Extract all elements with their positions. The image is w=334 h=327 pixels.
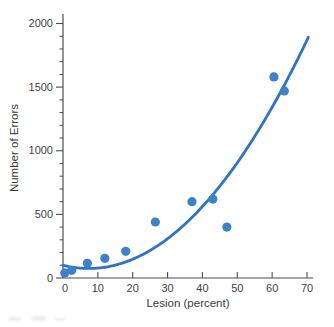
- y-tick-label: 0: [47, 272, 53, 284]
- x-tick-label: 50: [231, 282, 243, 294]
- page-bleed-smudge: [8, 317, 21, 321]
- x-tick-label: 30: [161, 282, 173, 294]
- x-tick-label: 0: [62, 282, 68, 294]
- y-axis-title: Number of Errors: [8, 104, 20, 192]
- x-tick-label: 60: [266, 282, 278, 294]
- data-point: [208, 195, 217, 204]
- data-point: [222, 223, 231, 232]
- chart-svg: 0500100015002000010203040506070 Number o…: [0, 0, 334, 327]
- page-bleed-smudge: [55, 318, 65, 321]
- x-tick-label: 10: [92, 282, 104, 294]
- scatter-chart: 0500100015002000010203040506070 Number o…: [0, 0, 334, 327]
- page-bleed-smudge: [31, 316, 46, 321]
- y-tick-label: 500: [35, 208, 53, 220]
- data-point: [280, 86, 289, 95]
- data-point: [121, 247, 130, 256]
- x-axis-title: Lesion (percent): [146, 297, 229, 309]
- data-point: [269, 72, 278, 81]
- data-point: [100, 254, 109, 263]
- tick-labels: 0500100015002000010203040506070: [29, 17, 314, 294]
- data-point: [83, 259, 92, 268]
- trend-curve: [63, 37, 308, 268]
- data-point: [187, 197, 196, 206]
- y-tick-label: 2000: [29, 17, 53, 29]
- plot-axes: [56, 14, 313, 278]
- x-tick-label: 70: [301, 282, 313, 294]
- x-tick-label: 20: [127, 282, 139, 294]
- y-tick-label: 1000: [29, 144, 53, 156]
- x-tick-label: 40: [196, 282, 208, 294]
- data-point: [67, 266, 76, 275]
- y-tick-label: 1500: [29, 81, 53, 93]
- data-point: [151, 217, 160, 226]
- data-points: [60, 72, 289, 277]
